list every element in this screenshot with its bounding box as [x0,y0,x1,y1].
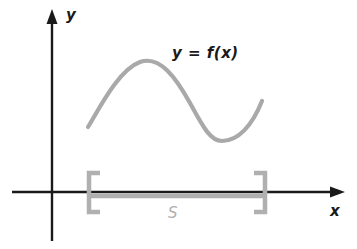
x-axis-label: x [330,204,340,219]
function-curve [88,61,262,141]
x-axis-arrow-icon [330,187,345,198]
function-graph-figure: y x y = f(x) S [0,0,357,249]
y-axis-arrow-icon [47,9,58,24]
y-axis-label: y [66,8,76,23]
graph-canvas [0,0,357,249]
function-equation-label: y = f(x) [172,46,239,61]
interval-label: S [168,206,178,221]
